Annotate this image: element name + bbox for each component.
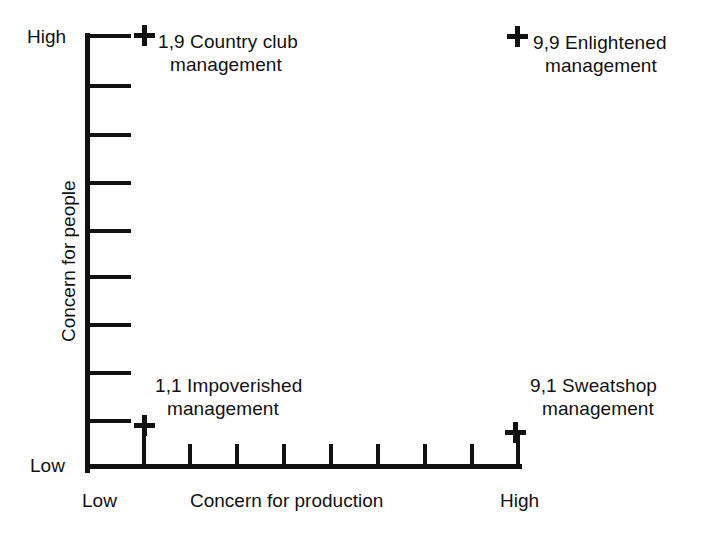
data-point-label-9-1-line2: management [530,397,654,420]
y-axis-tick-8 [85,84,131,88]
data-point-label-9-9-line1: 9,9 Enlightened [533,32,667,53]
y-axis-tick-3 [85,323,131,327]
x-axis-tick-2 [188,444,192,466]
data-point-label-1-1: 1,1 Impoverishedmanagement [155,374,302,420]
x-axis-tick-6 [376,444,380,466]
y-axis-title: Concern for people [58,180,80,342]
y-axis-tick-7 [85,133,131,137]
y-axis-tick-4 [85,275,131,279]
y-axis-tick-5 [85,229,131,233]
x-axis-tick-1 [142,435,146,466]
x-axis-low-label: Low [82,490,117,511]
data-point-label-1-9-line2: management [158,53,282,76]
y-axis-tick-1 [85,419,131,423]
managerial-grid-figure: 1,9 Country clubmanagement 9,9 Enlighten… [0,0,706,543]
data-point-label-9-9: 9,9 Enlightenedmanagement [533,31,667,77]
x-axis-tick-3 [235,444,239,466]
data-point-label-9-1-line1: 9,1 Sweatshop [530,375,657,396]
y-axis-high-label: High [27,26,66,47]
y-axis-tick-2 [85,371,131,375]
y-axis-low-label: Low [30,455,65,476]
data-point-marker-1-1 [134,415,155,436]
x-axis-line [85,464,522,469]
x-axis-tick-7 [423,444,427,466]
y-axis-tick-9 [85,34,131,38]
data-point-label-1-9-line1: 1,9 Country club [158,31,298,52]
x-axis-high-label: High [500,490,539,511]
data-point-label-1-1-line1: 1,1 Impoverished [155,375,302,396]
data-point-label-1-1-line2: management [155,397,279,420]
x-axis-tick-8 [470,444,474,466]
data-point-marker-1-9 [134,25,155,46]
y-axis-line [85,33,90,473]
data-point-label-1-9: 1,9 Country clubmanagement [158,30,298,76]
data-point-label-9-9-line2: management [533,54,657,77]
data-point-marker-9-1 [505,422,526,443]
data-point-label-9-1: 9,1 Sweatshopmanagement [530,374,657,420]
x-axis-title: Concern for production [190,490,383,511]
y-axis-tick-6 [85,181,131,185]
x-axis-tick-5 [329,444,333,466]
data-point-marker-9-9 [507,26,528,47]
x-axis-tick-4 [282,444,286,466]
